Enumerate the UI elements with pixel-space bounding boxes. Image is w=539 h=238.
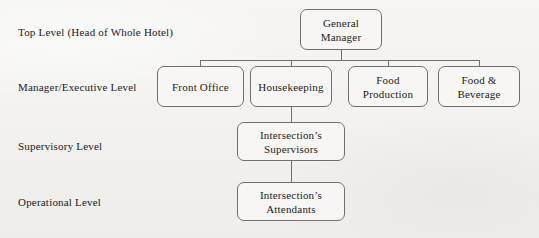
node-food-production[interactable]: Food Production xyxy=(348,66,428,107)
level-label-top: Top Level (Head of Whole Hotel) xyxy=(18,26,173,39)
node-housekeeping-label: Housekeeping xyxy=(258,80,323,94)
node-front-office[interactable]: Front Office xyxy=(157,66,244,107)
level-label-manager: Manager/Executive Level xyxy=(18,81,137,94)
node-general-manager[interactable]: General Manager xyxy=(300,9,382,50)
node-food-production-label: Food Production xyxy=(363,73,413,101)
node-attendants-label: Intersection’s Attendants xyxy=(260,188,322,216)
connector-supervisors-attendants xyxy=(291,161,292,182)
node-front-office-label: Front Office xyxy=(172,80,229,94)
level-label-operational: Operational Level xyxy=(18,196,101,209)
connector-row2-bus xyxy=(200,60,480,61)
connector-gm-stem xyxy=(341,50,342,60)
node-attendants[interactable]: Intersection’s Attendants xyxy=(237,182,345,221)
node-housekeeping[interactable]: Housekeeping xyxy=(250,66,332,107)
node-food-beverage-label: Food & Beverage xyxy=(457,73,500,101)
node-supervisors[interactable]: Intersection’s Supervisors xyxy=(237,122,345,161)
org-chart-diagram: Top Level (Head of Whole Hotel) Manager/… xyxy=(0,0,539,238)
node-supervisors-label: Intersection’s Supervisors xyxy=(260,128,322,156)
node-food-beverage[interactable]: Food & Beverage xyxy=(438,66,520,107)
connector-housekeeping-supervisors xyxy=(291,107,292,122)
node-general-manager-label: General Manager xyxy=(321,16,362,44)
level-label-supervisory: Supervisory Level xyxy=(18,140,102,153)
